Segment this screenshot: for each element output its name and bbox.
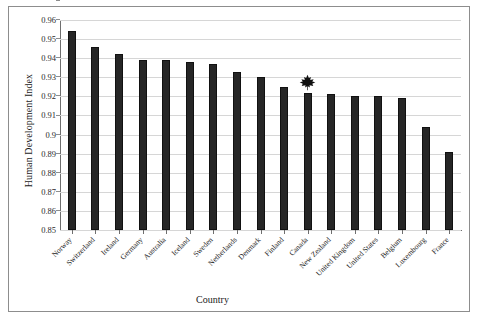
plot-area	[60, 20, 461, 230]
y-axis-tick-mark	[56, 57, 60, 58]
y-axis-tick-mark	[56, 153, 60, 154]
y-axis-tick-mark	[56, 95, 60, 96]
chart-figure: Human Development Index 0.960.950.940.93…	[0, 0, 479, 324]
x-axis-tick-mark	[72, 230, 73, 234]
x-axis-tick-mark	[308, 230, 309, 234]
y-axis-tick-mark	[56, 191, 60, 192]
x-axis-tick-mark	[166, 230, 167, 234]
x-axis-tick-mark	[449, 230, 450, 234]
x-axis-tick-mark	[143, 230, 144, 234]
y-axis-tick-label: 0.91	[22, 111, 56, 120]
x-axis-tick-mark	[378, 230, 379, 234]
y-axis-tick-mark	[56, 0, 60, 1]
bar-luxembourg[interactable]	[422, 127, 430, 230]
y-axis-tick-label: 0.89	[22, 149, 56, 158]
y-axis-tick-label: 0.88	[22, 168, 56, 177]
y-axis-tick-label: 0.93	[22, 73, 56, 82]
y-axis-tick-mark	[56, 210, 60, 211]
y-axis-tick-mark	[56, 172, 60, 173]
x-axis-title: Country	[40, 294, 385, 305]
y-axis-tick-label: 0.95	[22, 35, 56, 44]
y-axis-tick-label: 0.85	[22, 226, 56, 235]
x-axis-tick-mark	[190, 230, 191, 234]
bar-united-states[interactable]	[374, 96, 382, 230]
y-axis-tick-label: 0.96	[22, 16, 56, 25]
y-axis-tick-mark	[56, 115, 60, 116]
bar-iceland[interactable]	[186, 62, 194, 230]
bar-norway[interactable]	[68, 31, 76, 230]
y-axis-tick-mark	[56, 134, 60, 135]
bar-germany[interactable]	[139, 60, 147, 230]
x-axis-tick-mark	[95, 230, 96, 234]
x-axis-tick-mark	[237, 230, 238, 234]
y-axis-tick-mark	[56, 19, 60, 20]
bar-united-kingdom[interactable]	[351, 96, 359, 230]
bar-sweden[interactable]	[209, 64, 217, 230]
x-axis-tick-mark	[261, 230, 262, 234]
bar-new-zealand[interactable]	[327, 94, 335, 230]
x-axis-tick-mark	[355, 230, 356, 234]
gridline	[60, 20, 461, 21]
bar-finland[interactable]	[280, 87, 288, 230]
y-axis-tick-label: 0.9	[22, 130, 56, 139]
x-axis-tick-mark	[331, 230, 332, 234]
bar-australia[interactable]	[162, 60, 170, 230]
y-axis-tick-label: 0.86	[22, 207, 56, 216]
gridline	[60, 39, 461, 40]
bar-france[interactable]	[445, 152, 453, 230]
bar-netherlands[interactable]	[233, 72, 241, 230]
bar-belgium[interactable]	[398, 98, 406, 230]
bar-denmark[interactable]	[257, 77, 265, 230]
y-axis-tick-label: 0.94	[22, 54, 56, 63]
y-axis-tick-label: 0.92	[22, 92, 56, 101]
bar-canada[interactable]	[304, 93, 312, 230]
y-axis-tick-mark	[56, 76, 60, 77]
x-axis-tick-mark	[284, 230, 285, 234]
x-axis-tick-mark	[119, 230, 120, 234]
x-axis-tick-mark	[426, 230, 427, 234]
y-axis-tick-labels: 0.960.950.940.930.920.910.90.890.880.870…	[20, 20, 56, 230]
x-axis-tick-mark	[402, 230, 403, 234]
bar-ireland[interactable]	[115, 54, 123, 230]
maple-leaf-icon	[299, 74, 316, 91]
bar-switzerland[interactable]	[91, 47, 99, 230]
y-axis-tick-mark	[56, 38, 60, 39]
y-axis-tick-label: 0.87	[22, 188, 56, 197]
x-axis-tick-mark	[213, 230, 214, 234]
